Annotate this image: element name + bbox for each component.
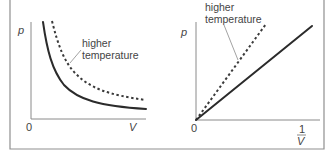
left-annotation-leader-line	[70, 50, 81, 63]
left-y-axis-label: p	[17, 24, 24, 36]
right-annotation-leader-line	[224, 25, 238, 60]
right-origin-label: 0	[191, 122, 197, 134]
right-x-axis-label-denominator: V	[297, 135, 306, 147]
left-panel: p 0 V higher temperature	[17, 21, 146, 133]
right-y-axis-label: p	[180, 26, 187, 38]
right-lower-temperature-line	[196, 26, 312, 120]
left-annotation-line1: higher	[82, 37, 112, 49]
right-annotation-line2: temperature	[205, 13, 262, 25]
right-annotation-line1: higher	[205, 1, 235, 13]
right-panel: p 0 1 V higher temperature	[180, 1, 320, 147]
right-x-axis-label-numerator: 1	[299, 123, 305, 135]
left-x-axis-label: V	[129, 121, 138, 133]
left-origin-label: 0	[26, 121, 32, 133]
left-annotation-line2: temperature	[82, 49, 139, 61]
left-lower-temperature-curve	[43, 22, 146, 109]
boyles-law-diagram: p 0 V higher temperature p 0 1 V higher …	[0, 0, 332, 154]
